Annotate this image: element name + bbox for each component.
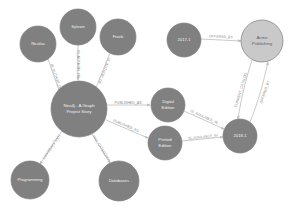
node-sylvain[interactable]: Sylvain xyxy=(60,9,96,45)
node-printed-edition[interactable]: Printed Edition xyxy=(148,126,182,160)
relationship-has-category-programming[interactable]: HAS_CATEGORY xyxy=(40,131,62,164)
node-circle[interactable] xyxy=(100,19,136,55)
node-digital-edition[interactable]: Digital Edition xyxy=(151,88,185,122)
relationship-label: IS_AVAILABLE_IN xyxy=(190,109,219,125)
node-circle[interactable] xyxy=(151,88,185,122)
relationship-label: IS_AVAILABLE_IN xyxy=(188,133,218,140)
relationship-line xyxy=(182,137,223,141)
node-frank[interactable]: Frank xyxy=(100,19,136,55)
relationship-current-catalog[interactable]: CURRENT_CATALOG xyxy=(234,60,252,119)
node-catalog-2018[interactable]: 2018-1 xyxy=(223,119,257,153)
relationship-has-category-databases[interactable]: HAS_CATEGORY xyxy=(92,134,111,163)
relationship-label: OFFERED_BY xyxy=(259,79,271,104)
relationship-offered-by-2018[interactable]: OFFERED_BY xyxy=(250,62,271,122)
node-circle[interactable] xyxy=(20,26,56,62)
relationship-line xyxy=(250,62,268,122)
relationship-is-author-of-frank[interactable]: IS_AUTHOR_OF xyxy=(95,53,111,90)
node-circle[interactable] xyxy=(99,161,139,201)
relationship-label: PUBLISHED_AS xyxy=(113,119,140,134)
node-circle[interactable] xyxy=(223,119,257,153)
relationship-line xyxy=(95,53,110,90)
relationship-offered-by-2017[interactable]: OFFERED_BY xyxy=(201,34,241,41)
node-circle[interactable] xyxy=(167,23,201,57)
relationship-label: IS_AUTHOR_OF xyxy=(49,63,62,91)
graph-visualization-canvas[interactable]: IS_AUTHOR_OF IS_AUTHOR_OF IS_AUTHOR_OF H… xyxy=(0,0,296,211)
node-circle[interactable] xyxy=(241,20,283,62)
relationship-published-as-printed[interactable]: PUBLISHED_AS xyxy=(106,119,148,138)
relationship-line xyxy=(201,39,241,41)
relationship-is-available-in-digital[interactable]: IS_AVAILABLE_IN xyxy=(184,109,224,129)
node-circle[interactable] xyxy=(51,81,107,137)
relationship-published-as-digital[interactable]: PUBLISHED_AS xyxy=(107,101,150,105)
relationship-is-author-of-sylvain[interactable]: IS_AUTHOR_OF xyxy=(76,45,80,80)
relationship-line xyxy=(184,111,224,129)
relationship-line xyxy=(40,131,62,164)
node-circle[interactable] xyxy=(11,161,49,199)
node-nicolas[interactable]: Nicolas xyxy=(20,26,56,62)
relationship-line xyxy=(238,60,252,119)
node-programming[interactable]: Programming xyxy=(11,161,49,199)
node-book[interactable]: Neo4j - A Graph Project Story xyxy=(51,81,107,137)
node-acme-publishing[interactable]: Acme Publishing xyxy=(241,20,283,62)
node-catalog-2017[interactable]: 2017-1 xyxy=(167,23,201,57)
node-databases[interactable]: Databases xyxy=(99,161,139,201)
relationship-is-available-in-printed[interactable]: IS_AVAILABLE_IN xyxy=(182,133,223,141)
relationship-label: PUBLISHED_AS xyxy=(114,101,142,105)
relationship-line xyxy=(106,120,148,138)
node-circle[interactable] xyxy=(148,126,182,160)
relationship-line xyxy=(92,134,110,163)
relationship-line xyxy=(48,59,60,93)
node-circle[interactable] xyxy=(60,9,96,45)
relationship-label: OFFERED_BY xyxy=(209,34,234,39)
